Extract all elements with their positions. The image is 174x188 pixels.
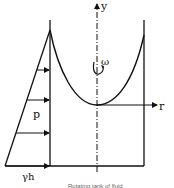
bottom-pressure-label: γh [22, 171, 35, 182]
r-axis-label: r [159, 100, 165, 113]
tank-walls [5, 20, 144, 166]
omega-label: ω [101, 56, 109, 67]
rotating-tank-diagram: y r ω p γh Rotating tank of fluid [0, 0, 174, 188]
pressure-arrows [6, 70, 49, 166]
pressure-label: p [33, 108, 40, 121]
pressure-distribution-line [5, 30, 50, 166]
figure-caption: Rotating tank of fluid [68, 183, 123, 188]
y-axis-label: y [100, 0, 108, 13]
